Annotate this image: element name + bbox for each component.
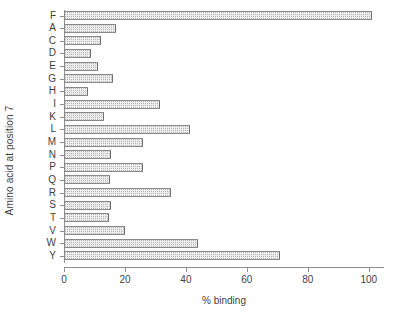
bar-W bbox=[64, 239, 198, 248]
bar-P bbox=[64, 163, 143, 172]
bar-V bbox=[64, 226, 125, 235]
y-tick-label-P: P bbox=[40, 162, 56, 172]
x-tick-label-80: 80 bbox=[293, 274, 323, 285]
y-tick-label-M: M bbox=[40, 137, 56, 147]
x-axis-title: % binding bbox=[64, 295, 384, 306]
y-tick-label-D: D bbox=[40, 48, 56, 58]
bar-I bbox=[64, 100, 160, 109]
y-tick-label-Y: Y bbox=[40, 251, 56, 261]
bar-F bbox=[64, 11, 372, 20]
x-tick-mark-60 bbox=[247, 268, 248, 272]
y-tick-label-S: S bbox=[40, 200, 56, 210]
bar-R bbox=[64, 188, 171, 197]
y-tick-label-E: E bbox=[40, 61, 56, 71]
bar-H bbox=[64, 87, 88, 96]
bar-A bbox=[64, 24, 116, 33]
y-tick-label-G: G bbox=[40, 74, 56, 84]
bar-E bbox=[64, 62, 98, 71]
bar-M bbox=[64, 138, 143, 147]
x-tick-mark-80 bbox=[308, 268, 309, 272]
y-tick-label-F: F bbox=[40, 11, 56, 21]
y-tick-label-R: R bbox=[40, 188, 56, 198]
x-tick-label-100: 100 bbox=[354, 274, 384, 285]
y-tick-label-L: L bbox=[40, 124, 56, 134]
bar-chart: Amino acid at position 7 FACDEGHIKLMNPQR… bbox=[0, 0, 405, 321]
y-tick-label-C: C bbox=[40, 36, 56, 46]
bar-T bbox=[64, 213, 109, 222]
x-tick-mark-0 bbox=[64, 268, 65, 272]
y-tick-label-I: I bbox=[40, 99, 56, 109]
x-tick-label-20: 20 bbox=[110, 274, 140, 285]
y-tick-label-H: H bbox=[40, 86, 56, 96]
y-tick-label-A: A bbox=[40, 23, 56, 33]
bar-D bbox=[64, 49, 91, 58]
bar-K bbox=[64, 112, 104, 121]
plot-area bbox=[64, 10, 394, 262]
y-tick-label-V: V bbox=[40, 226, 56, 236]
x-tick-mark-40 bbox=[186, 268, 187, 272]
bar-Y bbox=[64, 251, 280, 260]
x-tick-label-0: 0 bbox=[49, 274, 79, 285]
y-tick-label-N: N bbox=[40, 150, 56, 160]
bar-S bbox=[64, 201, 111, 210]
x-tick-label-60: 60 bbox=[232, 274, 262, 285]
bar-C bbox=[64, 36, 101, 45]
bar-N bbox=[64, 150, 111, 159]
bar-Q bbox=[64, 175, 110, 184]
x-tick-label-40: 40 bbox=[171, 274, 201, 285]
y-tick-label-W: W bbox=[40, 238, 56, 248]
x-tick-mark-20 bbox=[125, 268, 126, 272]
y-tick-label-K: K bbox=[40, 112, 56, 122]
y-axis-title: Amino acid at position 7 bbox=[0, 0, 18, 321]
bar-G bbox=[64, 74, 113, 83]
y-tick-label-Q: Q bbox=[40, 175, 56, 185]
y-tick-label-T: T bbox=[40, 213, 56, 223]
x-axis-line bbox=[64, 267, 384, 268]
bar-L bbox=[64, 125, 190, 134]
x-tick-mark-100 bbox=[369, 268, 370, 272]
